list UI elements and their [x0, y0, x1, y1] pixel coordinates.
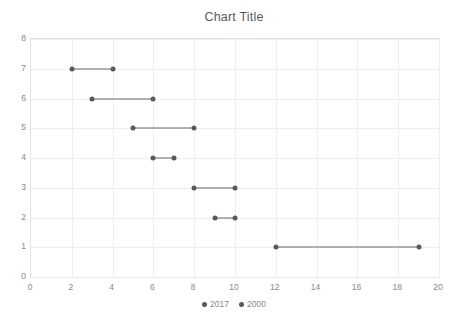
y-axis-tick-label: 4 — [2, 152, 26, 162]
range-connector-line — [276, 247, 419, 248]
y-axis: 012345678 — [0, 38, 26, 278]
data-point-2017[interactable] — [212, 215, 217, 220]
range-connector-line — [194, 187, 235, 188]
gridline-vertical — [194, 39, 195, 277]
data-point-2000[interactable] — [416, 245, 421, 250]
x-axis-tick-label: 20 — [423, 282, 453, 292]
chart-title: Chart Title — [0, 10, 468, 24]
gridline-horizontal — [31, 277, 439, 278]
data-point-2000[interactable] — [233, 215, 238, 220]
x-axis-tick-label: 2 — [56, 282, 86, 292]
y-axis-tick-label: 6 — [2, 93, 26, 103]
chart-container: Chart Title 012345678 02468101214161820 … — [0, 0, 468, 329]
gridline-vertical — [235, 39, 236, 277]
x-axis-tick-label: 8 — [178, 282, 208, 292]
legend-label: 2017 — [210, 299, 229, 309]
y-axis-tick-label: 3 — [2, 182, 26, 192]
data-point-2017[interactable] — [192, 185, 197, 190]
y-axis-tick-label: 7 — [2, 63, 26, 73]
x-axis-tick-label: 18 — [382, 282, 412, 292]
legend-marker-icon — [202, 302, 207, 307]
x-axis-tick-label: 16 — [341, 282, 371, 292]
x-axis-tick-label: 0 — [15, 282, 45, 292]
y-axis-tick-label: 0 — [2, 271, 26, 281]
x-axis-tick-label: 14 — [301, 282, 331, 292]
y-axis-tick-label: 8 — [2, 33, 26, 43]
x-axis: 02468101214161820 — [30, 282, 440, 298]
y-axis-tick-label: 2 — [2, 212, 26, 222]
y-axis-tick-label: 5 — [2, 122, 26, 132]
gridline-vertical — [398, 39, 399, 277]
range-connector-line — [72, 68, 113, 69]
plot-area — [30, 38, 440, 278]
gridline-vertical — [439, 39, 440, 277]
data-point-2000[interactable] — [171, 156, 176, 161]
y-axis-tick-label: 1 — [2, 241, 26, 251]
data-point-2017[interactable] — [273, 245, 278, 250]
range-connector-line — [133, 128, 194, 129]
data-point-2000[interactable] — [110, 66, 115, 71]
range-connector-line — [92, 98, 153, 99]
gridline-vertical — [357, 39, 358, 277]
x-axis-tick-label: 12 — [260, 282, 290, 292]
data-point-2000[interactable] — [151, 96, 156, 101]
x-axis-tick-label: 6 — [137, 282, 167, 292]
x-axis-tick-label: 4 — [97, 282, 127, 292]
x-axis-tick-label: 10 — [219, 282, 249, 292]
legend-label: 2000 — [247, 299, 266, 309]
legend-item-2000[interactable]: 2000 — [239, 299, 266, 309]
gridline-vertical — [72, 39, 73, 277]
data-point-2017[interactable] — [151, 156, 156, 161]
gridline-vertical — [317, 39, 318, 277]
data-point-2017[interactable] — [131, 126, 136, 131]
chart-legend: 20172000 — [0, 299, 468, 309]
data-point-2000[interactable] — [192, 126, 197, 131]
data-point-2017[interactable] — [90, 96, 95, 101]
data-point-2017[interactable] — [69, 66, 74, 71]
legend-marker-icon — [239, 302, 244, 307]
legend-item-2017[interactable]: 2017 — [202, 299, 229, 309]
data-point-2000[interactable] — [233, 185, 238, 190]
gridline-vertical — [276, 39, 277, 277]
gridline-vertical — [113, 39, 114, 277]
